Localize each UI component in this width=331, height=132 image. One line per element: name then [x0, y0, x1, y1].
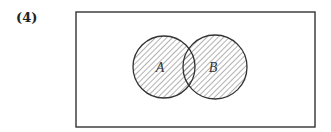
- set-b-label: B: [209, 60, 218, 75]
- set-a-label: A: [155, 60, 165, 75]
- venn-diagram: A B: [0, 0, 331, 132]
